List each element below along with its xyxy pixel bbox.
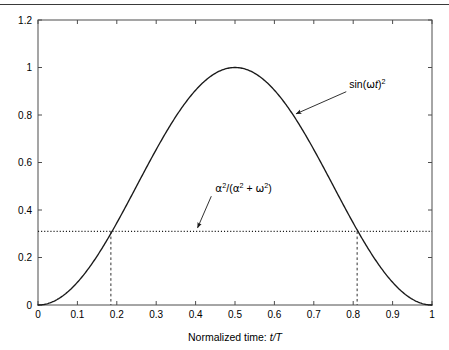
y-axis-tick-labels: 00.20.40.60.811.2 bbox=[18, 15, 32, 311]
threshold-annotation-arrow bbox=[198, 196, 212, 228]
chart-canvas: 00.10.20.30.40.50.60.70.80.91 00.20.40.6… bbox=[0, 0, 449, 350]
y-tick-label: 0.6 bbox=[18, 157, 32, 168]
plot-frame bbox=[38, 20, 432, 305]
y-tick-label: 0.8 bbox=[18, 110, 32, 121]
y-axis-ticks bbox=[38, 20, 432, 305]
x-tick-label: 0 bbox=[35, 309, 41, 320]
curve-annotation-label: sin(ωt)2 bbox=[349, 77, 385, 90]
annotation-arrows bbox=[198, 92, 347, 228]
y-tick-label: 0.4 bbox=[18, 205, 32, 216]
x-tick-label: 0.3 bbox=[149, 309, 163, 320]
x-tick-label: 0.9 bbox=[386, 309, 400, 320]
threshold-annotation-label: α2/(α2 + ω2) bbox=[215, 181, 272, 194]
x-tick-label: 0.7 bbox=[307, 309, 321, 320]
x-tick-label: 1 bbox=[429, 309, 435, 320]
x-tick-label: 0.8 bbox=[346, 309, 360, 320]
x-tick-label: 0.4 bbox=[189, 309, 203, 320]
curve-annotation-arrow bbox=[296, 92, 346, 114]
x-tick-label: 0.5 bbox=[228, 309, 242, 320]
y-tick-label: 1.2 bbox=[18, 15, 32, 26]
x-axis-tick-labels: 00.10.20.30.40.50.60.70.80.91 bbox=[35, 309, 435, 320]
y-tick-label: 1 bbox=[26, 62, 32, 73]
y-tick-label: 0.2 bbox=[18, 252, 32, 263]
vertical-dashed-markers bbox=[111, 231, 357, 305]
x-axis-ticks bbox=[38, 20, 432, 305]
x-tick-label: 0.6 bbox=[267, 309, 281, 320]
x-tick-label: 0.2 bbox=[110, 309, 124, 320]
y-tick-label: 0 bbox=[26, 300, 32, 311]
x-tick-label: 0.1 bbox=[70, 309, 84, 320]
x-axis-title: Normalized time: t/T bbox=[188, 331, 284, 343]
chart-figure: 00.10.20.30.40.50.60.70.80.91 00.20.40.6… bbox=[0, 0, 449, 350]
